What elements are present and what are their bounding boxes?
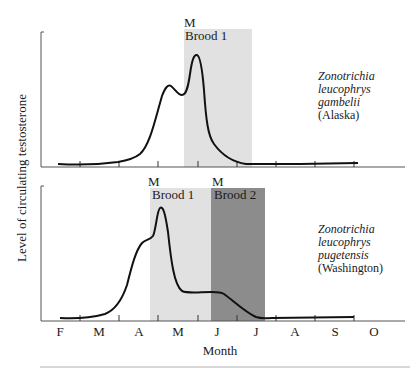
top-brood1-shade (184, 29, 252, 167)
month-label-sep: S (331, 324, 338, 339)
bottom-panel: M Brood 1 M Brood 2 Zonotrichia leucophr… (41, 174, 405, 321)
month-label-jun: J (214, 324, 219, 339)
bottom-species-line1: Zonotrichia (318, 222, 375, 236)
top-brood1-label: Brood 1 (185, 28, 227, 43)
testosterone-chart: M Brood 1 Zonotrichia leucophrys gambeli… (0, 0, 418, 368)
month-label-feb: F (56, 324, 63, 339)
x-axis-title: Month (203, 343, 238, 358)
top-species-line1: Zonotrichia (318, 69, 375, 83)
top-y-axis (41, 32, 44, 167)
month-labels: F M A M J J A S O (56, 324, 378, 339)
bottom-brood2-shade (211, 188, 265, 321)
month-label-jul: J (253, 324, 258, 339)
month-label-mar: M (93, 324, 105, 339)
month-label-oct: O (369, 324, 378, 339)
top-location: (Alaska) (318, 108, 359, 122)
top-species-line3: gambelii (318, 95, 360, 109)
y-axis-title: Level of circulating testosterone (14, 94, 29, 262)
top-panel: M Brood 1 Zonotrichia leucophrys gambeli… (41, 15, 405, 167)
month-label-may: M (172, 324, 184, 339)
top-species-line2: leucophrys (318, 82, 371, 96)
bottom-y-axis (41, 186, 44, 321)
month-label-aug: A (290, 324, 300, 339)
bottom-species-line3: pugetensis (317, 248, 369, 262)
bottom-species-line2: leucophrys (318, 235, 371, 249)
bottom-location: (Washington) (318, 261, 383, 275)
bottom-brood2-label: Brood 2 (214, 187, 256, 202)
bottom-brood1-label: Brood 1 (152, 187, 194, 202)
month-label-apr: A (134, 324, 144, 339)
